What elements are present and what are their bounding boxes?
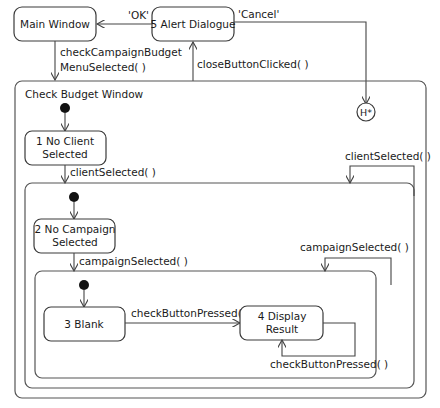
state-display-result: 4 Display Result — [240, 306, 323, 340]
svg-text:checkCampaignBudget: checkCampaignBudget — [60, 46, 182, 58]
transition-campaign-selected: campaignSelected( ) — [74, 253, 188, 271]
initial-node-3 — [79, 280, 89, 307]
state-alert-dialogue: 5 Alert Dialogue — [151, 7, 236, 41]
svg-text:clientSelected( ): clientSelected( ) — [70, 166, 156, 178]
svg-text:checkButtonPressed( ): checkButtonPressed( ) — [270, 358, 388, 370]
svg-text:4 Display: 4 Display — [258, 310, 307, 322]
svg-text:closeButtonClicked( ): closeButtonClicked( ) — [197, 58, 309, 70]
transition-ok: 'OK' — [97, 9, 152, 24]
svg-text:'OK': 'OK' — [128, 9, 149, 21]
svg-text:Check Budget Window: Check Budget Window — [25, 88, 144, 100]
state-no-client-selected: 1 No Client Selected — [25, 131, 106, 165]
svg-text:MenuSelected( ): MenuSelected( ) — [60, 61, 146, 73]
initial-node-2 — [69, 192, 79, 219]
svg-text:Main Window: Main Window — [20, 18, 90, 30]
svg-text:'Cancel': 'Cancel' — [238, 8, 279, 20]
svg-text:3 Blank: 3 Blank — [64, 318, 104, 330]
state-blank: 3 Blank — [44, 307, 125, 341]
transition-client-selected: clientSelected( ) — [65, 165, 156, 183]
transition-campaign-selected-self: campaignSelected( ) — [300, 241, 409, 285]
transition-client-selected-self: clientSelected( ) — [345, 150, 431, 196]
transition-cancel: 'Cancel' — [234, 8, 366, 104]
svg-text:checkButtonPressed( ): checkButtonPressed( ) — [131, 307, 249, 319]
svg-text:clientSelected( ): clientSelected( ) — [345, 150, 431, 162]
svg-text:Result: Result — [266, 323, 298, 335]
state-diagram: Main Window 5 Alert Dialogue 'OK' 'Cance… — [0, 0, 440, 408]
svg-text:Selected: Selected — [42, 148, 88, 160]
svg-text:2 No Campaign: 2 No Campaign — [35, 223, 116, 235]
initial-node-1 — [60, 103, 70, 131]
svg-text:1 No Client: 1 No Client — [36, 135, 94, 147]
svg-text:Selected: Selected — [52, 236, 98, 248]
svg-text:H*: H* — [360, 107, 372, 118]
svg-text:5 Alert Dialogue: 5 Alert Dialogue — [151, 18, 236, 30]
transition-close-button: closeButtonClicked( ) — [193, 42, 309, 81]
svg-text:campaignSelected( ): campaignSelected( ) — [300, 241, 409, 253]
history-state: H* — [357, 103, 375, 121]
state-main-window: Main Window — [14, 7, 96, 41]
svg-text:campaignSelected( ): campaignSelected( ) — [79, 255, 188, 267]
transition-check-button: checkButtonPressed( ) — [125, 307, 249, 323]
transition-check-campaign-budget: checkCampaignBudget MenuSelected( ) — [55, 41, 182, 80]
state-no-campaign-selected: 2 No Campaign Selected — [34, 219, 115, 253]
